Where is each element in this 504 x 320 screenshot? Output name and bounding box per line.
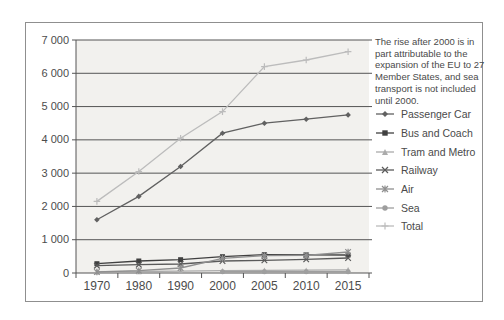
y-axis-label: 6 000 [41,67,69,79]
x-axis-label: 2000 [209,279,236,293]
y-axis-label: 2 000 [41,200,69,212]
x-axis-label: 2015 [335,279,362,293]
legend-marker-asterisk-icon [375,183,395,195]
legend-marker-x-icon [375,164,395,176]
x-axis-label: 1980 [125,279,152,293]
legend-marker-plus-icon [375,220,395,232]
line-chart-canvas: 01 0002 0003 0004 0005 0006 0007 0001970… [37,31,377,293]
legend-marker-diamond-icon [375,108,395,120]
legend-item-sea: Sea [375,198,485,217]
legend-item-air: Air [375,180,485,199]
data-point-marker-circle [262,269,267,274]
legend-marker-circle-icon [375,202,395,214]
chart-legend: Passenger CarBus and CoachTram and Metro… [375,105,485,236]
y-axis-label: 4 000 [41,133,69,145]
figure-frame: 01 0002 0003 0004 0005 0006 0007 0001970… [25,22,483,302]
x-axis-label: 2005 [251,279,278,293]
legend-marker-square-icon [375,127,395,139]
y-axis-label: 7 000 [41,34,69,46]
plot-area [76,40,369,273]
chart-note: The rise after 2000 is in part attributa… [375,36,485,106]
data-point-marker-circle [220,269,225,274]
y-axis-label: 0 [63,267,69,279]
x-axis-label: 1990 [167,279,194,293]
y-axis-label: 3 000 [41,167,69,179]
legend-label: Tram and Metro [401,146,475,158]
data-point-marker-circle [382,205,387,210]
data-point-marker-diamond [382,111,388,117]
data-point-marker-circle [304,269,309,274]
legend-item-passenger-car: Passenger Car [375,105,485,124]
legend-label: Sea [401,202,420,214]
legend-label: Railway [401,164,438,176]
legend-label: Total [401,220,423,232]
data-point-marker-circle [346,269,351,274]
legend-label: Passenger Car [401,108,471,120]
legend-item-bus-and-coach: Bus and Coach [375,124,485,143]
y-axis-label: 1 000 [41,233,69,245]
legend-item-tram-and-metro: Tram and Metro [375,142,485,161]
x-axis-label: 1970 [84,279,111,293]
legend-item-total: Total [375,217,485,236]
legend-label: Air [401,183,414,195]
legend-marker-triangle-icon [375,146,395,158]
x-axis-label: 2010 [293,279,320,293]
y-axis-label: 5 000 [41,100,69,112]
data-point-marker-plus [382,223,389,230]
data-point-marker-square [382,130,387,135]
legend-item-railway: Railway [375,161,485,180]
legend-label: Bus and Coach [401,127,473,139]
